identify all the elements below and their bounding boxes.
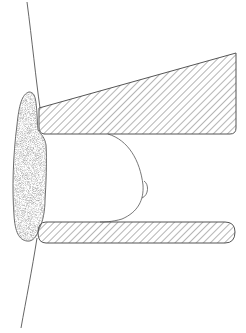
diagram-figure: [0, 0, 246, 333]
upper-wedge: [39, 53, 236, 134]
lower-bar: [38, 222, 235, 243]
dome-outline: [100, 134, 143, 222]
